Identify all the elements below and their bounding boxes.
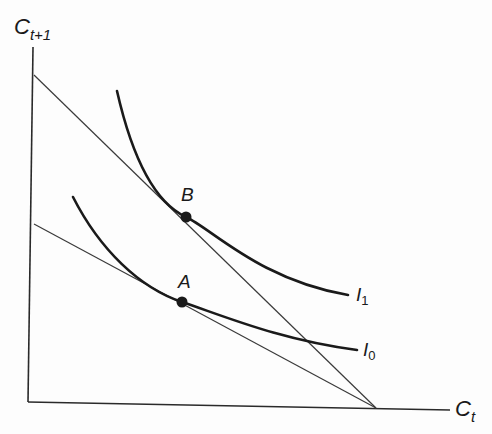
- y-axis-label: Ct+1: [14, 14, 51, 43]
- x-axis-label: Ct: [455, 396, 475, 425]
- point-a-marker: [177, 297, 188, 308]
- indifference-curve-i0: [73, 197, 357, 350]
- x-axis-label-sub: t: [471, 408, 475, 425]
- point-b-marker: [181, 212, 192, 223]
- y-axis-label-main: C: [14, 14, 30, 39]
- diagram-svg: [0, 0, 492, 434]
- point-b-label: B: [181, 184, 194, 206]
- curve-i0-label: I0: [363, 339, 376, 363]
- y-axis: [28, 47, 33, 402]
- curve-i0-label-sub: 0: [368, 348, 375, 363]
- lower-budget-line: [34, 224, 376, 408]
- x-axis: [28, 402, 450, 410]
- upper-budget-line: [34, 75, 376, 408]
- curve-i1-label: I1: [356, 284, 369, 308]
- x-axis-label-main: C: [455, 396, 471, 421]
- y-axis-label-sub: t+1: [30, 26, 51, 43]
- indifference-curve-i1: [117, 91, 348, 295]
- diagram-canvas: Ct+1 Ct B A I1 I0: [0, 0, 492, 434]
- curve-i1-label-sub: 1: [361, 293, 368, 308]
- point-a-label: A: [178, 271, 191, 293]
